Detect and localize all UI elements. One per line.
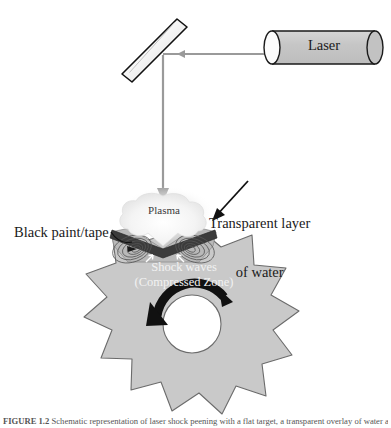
transparent-water-label-line1: Transparent layer bbox=[209, 215, 310, 231]
shock-waves-label: Shock waves (Compressed Zone) bbox=[104, 260, 264, 291]
shock-waves-label-line2: (Compressed Zone) bbox=[104, 275, 264, 290]
horizontal-beam-arrow bbox=[163, 50, 264, 58]
figure-caption: FIGURE 1.2 Schematic representation of l… bbox=[3, 417, 388, 428]
transparent-water-label: Transparent layer of water bbox=[209, 183, 310, 313]
tilted-mirror bbox=[122, 19, 187, 82]
shock-waves-label-line1: Shock waves bbox=[151, 260, 217, 274]
plasma-label: Plasma bbox=[133, 204, 195, 216]
vertical-beam-arrow bbox=[157, 55, 169, 202]
laser-shock-peening-diagram bbox=[0, 0, 391, 428]
figure-container: Laser Plasma Transparent layer of water … bbox=[0, 0, 391, 428]
black-paint-label: Black paint/tape bbox=[14, 224, 109, 240]
laser-label: Laser bbox=[281, 37, 367, 54]
figure-caption-text: Schematic representation of laser shock … bbox=[51, 417, 388, 426]
figure-caption-label: FIGURE 1.2 bbox=[3, 417, 49, 426]
